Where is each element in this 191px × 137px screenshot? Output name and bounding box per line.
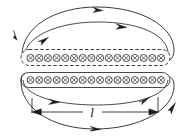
coil-row-upper	[21, 50, 170, 66]
arrowhead-dim-right	[149, 109, 159, 115]
length-label: l	[90, 105, 94, 120]
coil-upper-outline	[21, 50, 170, 66]
arrowhead-inner-left	[38, 37, 49, 45]
arrowhead-outer-left	[13, 30, 17, 40]
arrowhead-top-center	[93, 7, 103, 12]
arrowhead-outer-right	[168, 103, 176, 114]
arrowhead-dim-left	[31, 109, 41, 115]
arrowhead-inner-lower-left	[49, 99, 60, 105]
diagram-canvas: l	[0, 0, 191, 137]
physics-diagram-solenoid: l	[0, 0, 191, 137]
arrowhead-inner-lower-right	[139, 97, 150, 105]
coil-lower-outline	[21, 73, 170, 88]
coil-row-lower	[21, 73, 170, 88]
